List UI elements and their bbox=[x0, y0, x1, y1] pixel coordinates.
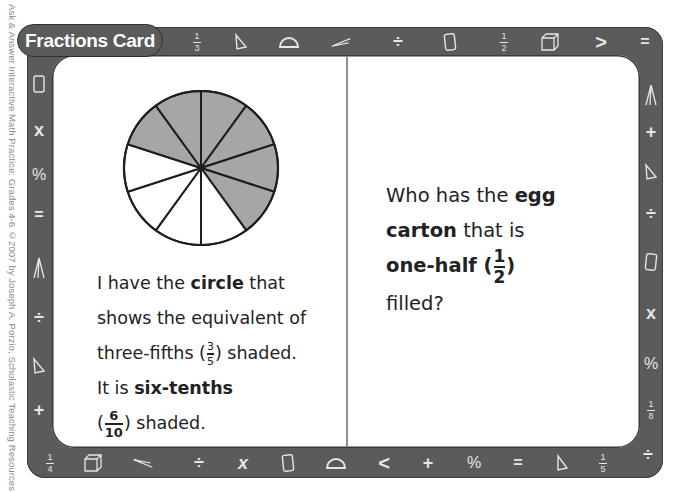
compass-icon bbox=[640, 84, 662, 106]
fraction-one-eighth-icon: 18 bbox=[640, 399, 662, 421]
right-line-4: filled? bbox=[386, 286, 626, 321]
card-title: Fractions Card bbox=[17, 24, 163, 57]
fraction-one-half-icon: 12 bbox=[493, 31, 515, 53]
fraction-one-half: 12 bbox=[494, 248, 506, 286]
divide-icon: ÷ bbox=[637, 444, 659, 466]
plus-icon: + bbox=[28, 399, 50, 421]
compass-icon bbox=[330, 31, 352, 53]
divide-icon: ÷ bbox=[387, 31, 409, 53]
right-line-1: Who has the egg bbox=[386, 178, 626, 213]
triangle-icon bbox=[551, 452, 573, 474]
compass-icon bbox=[132, 452, 154, 474]
times-icon: x bbox=[28, 119, 50, 141]
protractor-icon bbox=[325, 452, 347, 474]
percent-icon: % bbox=[463, 452, 485, 474]
percent-icon: % bbox=[640, 353, 662, 375]
equals-icon: = bbox=[507, 452, 529, 474]
left-line-1: I have the circle that bbox=[97, 266, 347, 301]
times-icon: x bbox=[232, 452, 254, 474]
fraction-circle bbox=[122, 89, 280, 247]
left-line-3: three-fifths (35) shaded. bbox=[97, 336, 347, 371]
cube-icon bbox=[82, 452, 104, 474]
right-line-3: one-half (12) bbox=[386, 248, 626, 286]
tablet-icon bbox=[277, 452, 299, 474]
fraction-six-tenths: 610 bbox=[105, 409, 123, 439]
tablet-icon bbox=[28, 73, 50, 95]
plus-icon: + bbox=[417, 452, 439, 474]
protractor-icon bbox=[278, 31, 300, 53]
cube-icon bbox=[539, 31, 561, 53]
left-line-4: It is six-tenths bbox=[97, 371, 347, 406]
left-line-5: (610) shaded. bbox=[97, 406, 347, 441]
copyright-text: Ask & Answer Interactive Math Practice: … bbox=[2, 4, 18, 488]
percent-icon: % bbox=[28, 164, 50, 186]
tablet-icon bbox=[640, 251, 662, 273]
tablet-icon bbox=[439, 31, 461, 53]
fraction-one-fifth-icon: 15 bbox=[592, 452, 614, 474]
divide-icon: ÷ bbox=[28, 307, 50, 329]
right-card-text: Who has the egg carton that is one-half … bbox=[386, 178, 626, 321]
equals-icon: = bbox=[634, 31, 656, 53]
plus-icon: + bbox=[640, 121, 662, 143]
times-icon: x bbox=[640, 302, 662, 324]
fraction-one-fourth-icon: 14 bbox=[39, 452, 61, 474]
less-than-icon: < bbox=[373, 452, 395, 474]
triangle-icon bbox=[230, 31, 252, 53]
right-line-2: carton that is bbox=[386, 213, 626, 248]
divide-icon: ÷ bbox=[188, 452, 210, 474]
triangle-icon bbox=[28, 355, 50, 377]
divide-icon: ÷ bbox=[640, 203, 662, 225]
triangle-icon bbox=[640, 161, 662, 183]
equals-icon: = bbox=[28, 204, 50, 226]
left-card-text: I have the circle that shows the equival… bbox=[97, 266, 347, 441]
compass-icon bbox=[28, 257, 50, 279]
greater-than-icon: > bbox=[590, 31, 612, 53]
fraction-one-third-icon: 13 bbox=[186, 31, 208, 53]
left-line-2: shows the equivalent of bbox=[97, 301, 347, 336]
fraction-three-fifths: 35 bbox=[207, 341, 214, 367]
